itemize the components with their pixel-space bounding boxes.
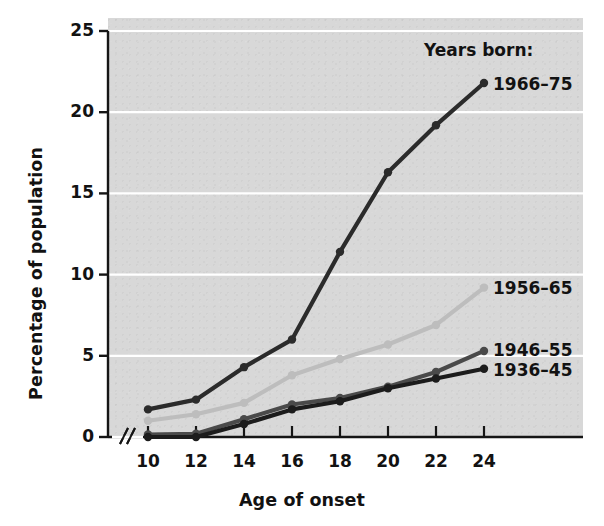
y-tick-label: 20 — [52, 101, 94, 121]
series-label-1936-45: 1936–45 — [493, 360, 572, 380]
chart-figure: Age of onset Percentage of population 10… — [0, 0, 604, 526]
y-tick-label: 5 — [52, 345, 94, 365]
x-tick-label: 12 — [171, 451, 221, 471]
y-tick-label: 15 — [52, 182, 94, 202]
y-tick-label: 0 — [52, 426, 94, 446]
axis-break-icon — [112, 428, 143, 444]
series-label-1956-65: 1956–65 — [493, 278, 572, 298]
y-tick-label: 10 — [52, 264, 94, 284]
series-1946-55 — [144, 347, 488, 439]
series-label-1946-55: 1946–55 — [493, 340, 572, 360]
y-axis-title: Percentage of population — [26, 147, 46, 400]
x-axis-title: Age of onset — [0, 490, 604, 510]
x-tick-label: 16 — [267, 451, 317, 471]
series-1966-75 — [144, 79, 488, 414]
x-tick-label: 22 — [411, 451, 461, 471]
legend-title: Years born: — [424, 40, 533, 60]
x-tick-label: 24 — [459, 451, 509, 471]
x-tick-label: 20 — [363, 451, 413, 471]
x-tick-label: 14 — [219, 451, 269, 471]
series-label-1966-75: 1966–75 — [493, 74, 572, 94]
data-series-layer — [144, 79, 488, 441]
x-tick-label: 18 — [315, 451, 365, 471]
y-tick-label: 25 — [52, 20, 94, 40]
x-tick-label: 10 — [123, 451, 173, 471]
y-tick-marks — [99, 31, 108, 437]
